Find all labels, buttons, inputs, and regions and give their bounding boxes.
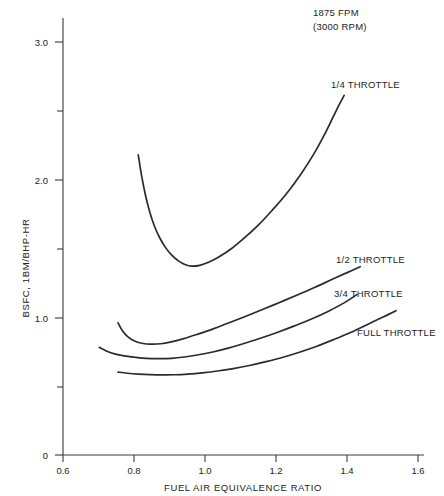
chart-canvas: 3.0 2.0 1.0 0 0.6 0.8 1.0 1.2 1.4 1.6 FU…	[0, 0, 444, 496]
x-tick-label-1.4: 1.4	[340, 465, 353, 476]
chart-figure: 3.0 2.0 1.0 0 0.6 0.8 1.0 1.2 1.4 1.6 FU…	[0, 0, 444, 496]
x-tick-label-1.6: 1.6	[411, 465, 424, 476]
x-axis-title: FUEL AIR EQUIVALENCE RATIO	[164, 482, 322, 493]
curve-3-4-throttle	[99, 295, 357, 359]
curve-full-throttle	[118, 311, 396, 375]
y-tick-label-3.0: 3.0	[35, 37, 48, 48]
curve-label-half-throttle: 1/2 THROTTLE	[336, 254, 405, 265]
speed-annotation-fpm: 1875 FPM	[313, 7, 359, 18]
y-tick-label-0: 0	[43, 450, 48, 461]
x-axis-ticks	[63, 455, 418, 462]
curve-label-quarter-throttle: 1/4 THROTTLE	[331, 79, 400, 90]
y-tick-label-1.0: 1.0	[35, 313, 48, 324]
data-curves	[99, 95, 396, 374]
x-tick-label-1.2: 1.2	[269, 465, 282, 476]
y-tick-label-2.0: 2.0	[35, 175, 48, 186]
y-axis-title: BSFC, 1BM/BHP-HR	[20, 219, 31, 318]
curve-1-2-throttle	[118, 267, 360, 345]
speed-annotation-rpm: (3000 RPM)	[313, 21, 367, 32]
x-tick-label-1.0: 1.0	[198, 465, 211, 476]
x-tick-label-0.6: 0.6	[56, 465, 69, 476]
curve-label-full-throttle: FULL THROTTLE	[357, 327, 436, 338]
x-tick-label-0.8: 0.8	[127, 465, 140, 476]
curve-label-three-quarter-throttle: 3/4 THROTTLE	[334, 288, 403, 299]
curve-1-4-throttle	[138, 95, 344, 266]
y-axis-ticks	[55, 42, 63, 455]
